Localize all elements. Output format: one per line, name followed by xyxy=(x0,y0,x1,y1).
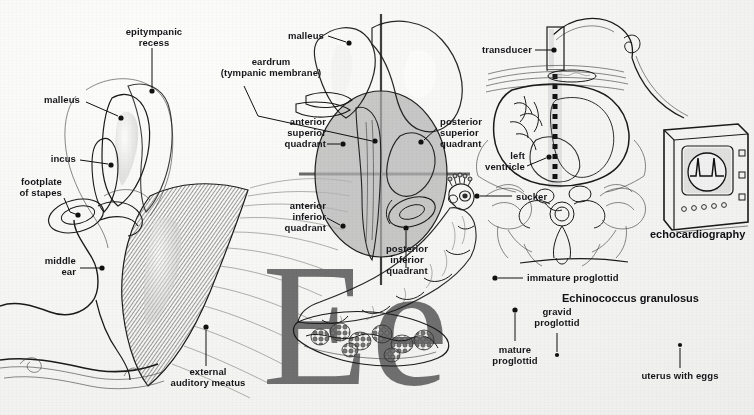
label-sucker: sucker xyxy=(516,191,566,202)
echinococcus-illustration xyxy=(0,0,754,415)
proglottid-chain xyxy=(298,208,476,324)
label-uterus-with-eggs: uterus with eggs xyxy=(620,370,740,381)
label-mature-proglottid: mature proglottid xyxy=(478,344,552,366)
gravid-proglottid xyxy=(294,311,449,366)
title-echinococcus-granulosus: Echinococcus granulosus xyxy=(562,292,699,304)
label-immature-proglottid: immature proglottid xyxy=(527,272,637,283)
label-gravid-proglottid: gravid proglottid xyxy=(524,306,590,328)
dictionary-page: epitympanic recess malleus incus footpla… xyxy=(0,0,754,415)
scolex xyxy=(448,173,474,210)
